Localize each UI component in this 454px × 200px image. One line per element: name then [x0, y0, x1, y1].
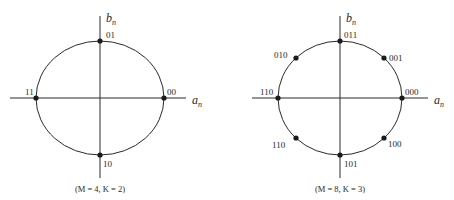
diagram-caption: (M = 8, K = 3)	[315, 184, 365, 194]
symbol-point	[161, 95, 166, 100]
symbol-point	[399, 95, 404, 100]
b-axis-label: bn	[346, 11, 356, 27]
symbol-point	[275, 95, 280, 100]
diagram-caption: (M = 4, K = 2)	[75, 184, 125, 194]
symbol-point	[33, 95, 38, 100]
symbol-point	[97, 38, 102, 43]
symbol-point	[293, 135, 298, 140]
symbol-label: 010	[274, 50, 288, 60]
symbol-point	[293, 55, 298, 60]
symbol-point	[337, 152, 342, 157]
constellation-m4: bn an 00 01 11 10 (M = 4, K = 2)	[10, 11, 202, 194]
symbol-label: 101	[344, 159, 358, 169]
symbol-point	[381, 135, 386, 140]
symbol-label: 10	[103, 159, 113, 169]
symbol-label: 11	[25, 87, 34, 97]
symbol-label: 110	[260, 87, 274, 97]
a-axis-label: an	[434, 93, 444, 109]
symbol-label: 100	[388, 139, 402, 149]
constellation-m8: bn an 000 001 011 010 110 110 101 100 (M…	[252, 11, 444, 194]
constellation-diagrams: bn an 00 01 11 10 (M = 4, K = 2) bn an 0…	[0, 0, 454, 200]
symbol-label: 000	[405, 87, 419, 97]
symbol-point	[97, 152, 102, 157]
symbol-label: 01	[106, 30, 115, 40]
symbol-label: 001	[389, 53, 403, 63]
a-axis-label: an	[192, 93, 202, 109]
b-axis-label: bn	[106, 11, 116, 27]
symbol-label: 00	[167, 87, 177, 97]
symbol-label: 011	[344, 30, 357, 40]
symbol-label: 110	[272, 140, 286, 150]
symbol-point	[381, 55, 386, 60]
symbol-point	[337, 38, 342, 43]
